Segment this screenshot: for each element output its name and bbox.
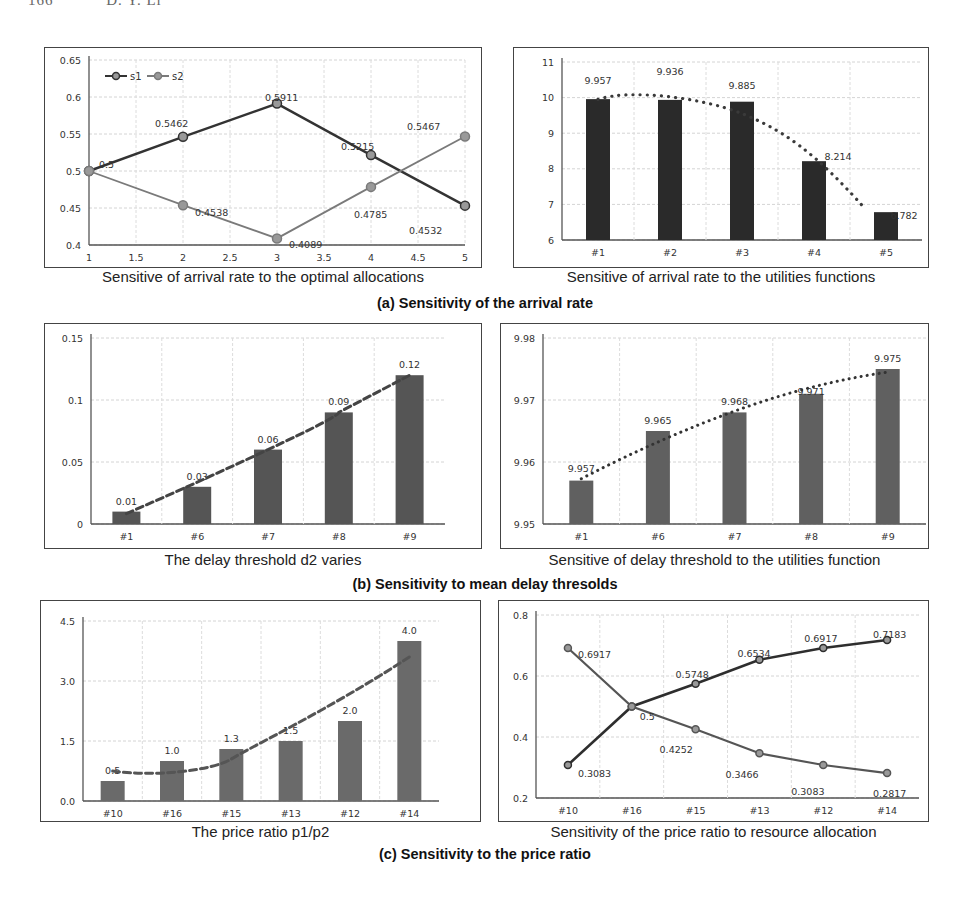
caption-a-right: Sensitive of arrival rate to the utiliti… — [513, 268, 929, 285]
line-chart-price-allocation: 0.20.40.60.8#10#16#15#13#12#140.30830.50… — [499, 601, 930, 823]
bar — [646, 431, 670, 524]
x-tick-label: 1.5 — [128, 252, 143, 263]
group-caption-c: (c) Sensitivity to the price ratio — [0, 846, 970, 862]
y-tick-label: 0.05 — [62, 457, 83, 468]
x-tick-label: #2 — [663, 247, 677, 258]
bar — [279, 741, 303, 801]
bar — [254, 450, 282, 524]
x-tick-label: #6 — [190, 531, 204, 542]
group-caption-a: (a) Sensitivity of the arrival rate — [0, 295, 970, 311]
bar — [183, 487, 211, 524]
bar — [396, 375, 424, 524]
data-label: 0.2817 — [873, 788, 906, 799]
bar — [586, 99, 610, 240]
x-tick-label: #13 — [749, 805, 769, 816]
data-label: 0.7183 — [873, 629, 906, 640]
chart-c-left: 0.01.53.04.5#100.5#161.0#151.3#131.5#122… — [40, 600, 481, 822]
data-label: 0.5 — [640, 711, 655, 722]
caption-b-left: The delay threshold d2 varies — [44, 551, 482, 568]
trendline — [113, 657, 410, 773]
data-point — [273, 234, 282, 243]
data-label: 9.885 — [728, 80, 755, 91]
x-tick-label: #8 — [804, 531, 818, 542]
data-point — [564, 761, 571, 768]
y-tick-label: 0.6 — [66, 92, 81, 103]
x-tick-label: #10 — [558, 805, 578, 816]
data-label: 0.4089 — [289, 239, 322, 250]
chart-c-right: 0.20.40.60.8#10#16#15#13#12#140.30830.50… — [498, 600, 929, 822]
data-label: 9.975 — [874, 353, 901, 364]
x-tick-label: #9 — [881, 531, 895, 542]
y-tick-label: 0.8 — [513, 610, 528, 621]
bar-chart-delay-utilities: 9.959.969.979.98#19.957#69.965#79.968#89… — [501, 324, 930, 550]
data-point — [85, 167, 94, 176]
x-tick-label: 2 — [180, 252, 186, 263]
bar — [802, 161, 826, 240]
x-tick-label: #13 — [281, 808, 301, 819]
y-tick-label: 9.98 — [514, 333, 535, 344]
y-tick-label: 0 — [77, 519, 83, 530]
data-label: 9.965 — [644, 415, 671, 426]
x-tick-label: #10 — [103, 808, 123, 819]
x-tick-label: 4.5 — [410, 252, 425, 263]
data-point — [628, 703, 635, 710]
data-label: 0.5467 — [407, 121, 440, 132]
data-point — [179, 201, 188, 210]
bar — [658, 100, 682, 240]
y-tick-label: 4.5 — [60, 616, 75, 627]
line-chart-allocations: 0.40.450.50.550.60.6511.522.533.544.550.… — [45, 48, 483, 269]
x-tick-label: #14 — [399, 808, 419, 819]
bar — [160, 761, 184, 801]
data-label: 0.6917 — [804, 633, 837, 644]
caption-b-right: Sensitive of delay threshold to the util… — [500, 551, 929, 568]
data-label: 2.0 — [342, 705, 357, 716]
y-tick-label: 0.2 — [513, 793, 528, 804]
y-tick-label: 3.0 — [60, 676, 75, 687]
x-tick-label: #6 — [651, 531, 665, 542]
x-tick-label: #7 — [727, 531, 741, 542]
data-label: 0.4538 — [195, 207, 228, 218]
y-tick-label: 0.45 — [60, 203, 81, 214]
x-tick-label: #5 — [879, 247, 893, 258]
legend-label-series-s1: s1 — [130, 71, 142, 82]
data-point — [367, 182, 376, 191]
data-point — [179, 132, 188, 141]
x-tick-label: #7 — [261, 531, 275, 542]
data-label: 8.214 — [824, 151, 851, 162]
data-label: 0.5462 — [155, 118, 188, 129]
data-label: 9.957 — [568, 463, 595, 474]
data-label: 0.5 — [99, 159, 114, 170]
bar-chart-utilities: 67891011#19.957#29.936#39.885#48.214#56.… — [514, 48, 930, 269]
data-point — [820, 645, 827, 652]
x-tick-label: 5 — [462, 252, 468, 263]
bar — [723, 412, 747, 524]
y-tick-label: 1.5 — [60, 736, 75, 747]
bar — [338, 721, 362, 801]
bar — [569, 481, 593, 524]
bar — [397, 641, 421, 801]
data-label: 0.4252 — [660, 744, 693, 755]
data-label: 0.6917 — [578, 649, 611, 660]
data-point — [461, 132, 470, 141]
data-label: 0.4532 — [409, 225, 442, 236]
data-label: 0.01 — [116, 496, 137, 507]
data-label: 0.3466 — [725, 769, 758, 780]
data-label: 0.12 — [399, 359, 420, 370]
y-tick-label: 7 — [548, 199, 554, 210]
x-tick-label: #1 — [591, 247, 605, 258]
data-point — [756, 750, 763, 757]
data-point — [564, 645, 571, 652]
data-point — [820, 761, 827, 768]
x-tick-label: 2.5 — [222, 252, 237, 263]
chart-a-left: 0.40.450.50.550.60.6511.522.533.544.550.… — [44, 47, 482, 268]
caption-c-left: The price ratio p1/p2 — [40, 823, 481, 840]
caption-a-left: Sensitive of arrival rate to the optimal… — [44, 268, 482, 285]
x-tick-label: 3.5 — [316, 252, 331, 263]
bar — [799, 394, 823, 524]
y-tick-label: 10 — [542, 92, 554, 103]
data-point — [692, 680, 699, 687]
y-tick-label: 0.15 — [62, 333, 83, 344]
data-label: 0.3083 — [578, 768, 611, 779]
data-label: 0.06 — [257, 434, 278, 445]
x-tick-label: 1 — [86, 252, 92, 263]
